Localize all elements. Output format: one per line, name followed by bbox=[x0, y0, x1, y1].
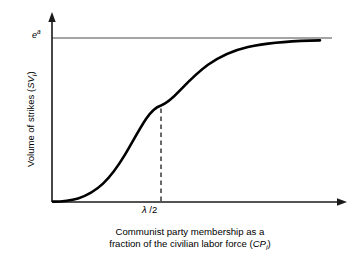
y-axis-title-prefix: Volume of strikes ( bbox=[25, 89, 36, 167]
x-axis-arrow-icon bbox=[337, 198, 347, 205]
y-axis-title: Volume of strikes (SVi) bbox=[25, 39, 39, 199]
y-axis-title-subscript: i bbox=[31, 75, 38, 77]
x-axis-title-line1: Communist party membership as a bbox=[49, 226, 331, 238]
x-axis-title-line2: fraction of the civilian labor force (CP… bbox=[49, 238, 331, 252]
y-axis-title-symbol: SV bbox=[25, 76, 36, 89]
x-axis-title-line2-prefix: fraction of the civilian labor force ( bbox=[109, 238, 252, 249]
x-axis-tick-label: λ /2 bbox=[142, 204, 157, 216]
x-axis-title-suffix: ) bbox=[268, 238, 271, 249]
y-axis-arrow-icon bbox=[48, 12, 55, 22]
figure-container: ea Volume of strikes (SVi) λ /2 Communis… bbox=[0, 0, 358, 260]
asymptote-exponent-text: a bbox=[37, 28, 41, 35]
x-axis-title-symbol: CP bbox=[253, 238, 266, 249]
x-tick-rest-text: /2 bbox=[147, 204, 158, 215]
y-axis-title-suffix: ) bbox=[25, 71, 36, 74]
sigmoid-curve-path bbox=[53, 40, 320, 201]
chart-canvas bbox=[0, 0, 358, 260]
x-axis-title: Communist party membership as afraction … bbox=[49, 226, 331, 252]
